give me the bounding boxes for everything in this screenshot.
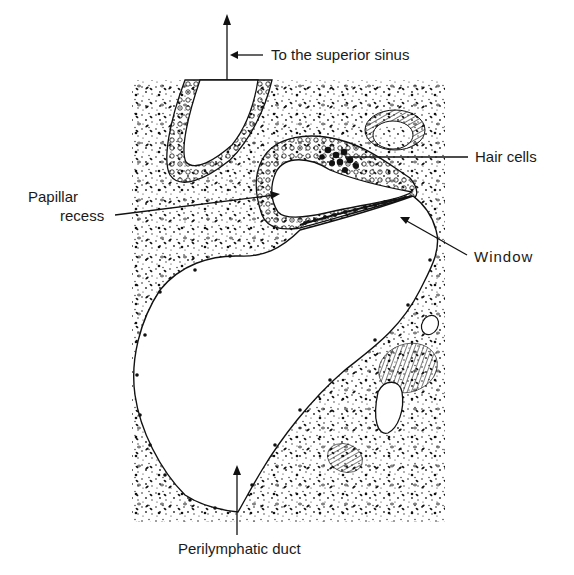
label-papillar-recess-line2: recess <box>60 207 104 224</box>
label-window: Window <box>474 248 533 265</box>
anatomical-figure <box>0 0 574 575</box>
fibrous-ring <box>365 110 425 150</box>
label-perilymphatic-duct: Perilymphatic duct <box>178 540 301 557</box>
label-hair-cells: Hair cells <box>475 148 537 165</box>
label-papillar-recess-line1: Papillar <box>28 188 78 205</box>
label-superior-sinus: To the superior sinus <box>271 46 409 63</box>
